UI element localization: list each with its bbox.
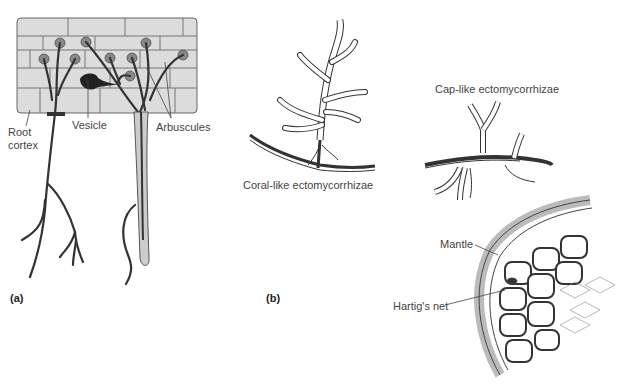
- panel-a-illustration: [0, 0, 617, 391]
- cap-like-ectomycorrhiza-drawing: [425, 102, 552, 200]
- vesicle-label: Vesicle: [72, 119, 107, 131]
- arbuscules-label: Arbuscules: [156, 121, 210, 133]
- mantle-label: Mantle: [440, 238, 473, 250]
- coral-like-ectomycorrhiza-drawing: [250, 20, 375, 172]
- cap-like-label: Cap-like ectomycorrhizae: [435, 83, 559, 95]
- panel-a-label: (a): [10, 292, 23, 304]
- panel-b-label: (b): [266, 292, 280, 304]
- hartigs-net-label: Hartig's net: [393, 300, 448, 312]
- root-cortex-label-line1: Root: [8, 126, 31, 138]
- coral-like-label: Coral-like ectomycorrhizae: [243, 179, 373, 191]
- root-cross-section-drawing: [479, 200, 615, 375]
- mycorrhizae-figure: Root cortex Vesicle Arbuscules (a) Coral…: [0, 0, 617, 391]
- root-cortex-label-line2: cortex: [8, 139, 38, 151]
